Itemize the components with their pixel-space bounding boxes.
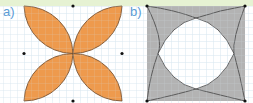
panel-a-grid-overlay [24, 6, 122, 101]
panel-b-grid-overlay [147, 6, 245, 101]
panel-b-label: b) [130, 4, 142, 19]
panel-a-label: a) [3, 4, 15, 19]
diagram-canvas [0, 0, 253, 103]
